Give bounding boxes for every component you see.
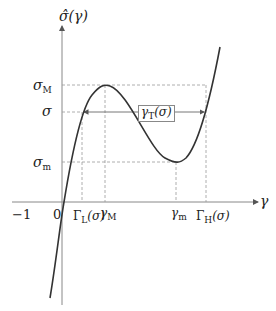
tick-gamma-H: ΓH(σ) (196, 210, 230, 225)
guide-lines (62, 85, 206, 202)
tick-minus-one: −1 (12, 208, 31, 221)
tick-sigma-m: σm (33, 155, 51, 172)
x-axis-label: γ (260, 194, 268, 208)
interval-label: γT(σ) (138, 105, 175, 122)
tick-zero: 0 (53, 208, 61, 221)
tick-sigma: σ (42, 104, 52, 118)
tick-gamma-M: γM (100, 207, 116, 222)
tick-gamma-m: γm (171, 207, 187, 222)
tick-sigma-M: σM (33, 78, 52, 95)
y-axis-label: σ̂(γ) (59, 9, 88, 23)
